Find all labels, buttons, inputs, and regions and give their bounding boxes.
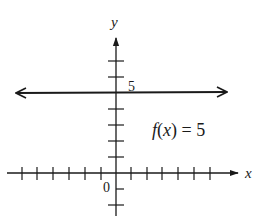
coordinate-plane: y x 0 5 f(x) = 5 xyxy=(0,0,255,219)
function-label: f(x) = 5 xyxy=(152,120,205,141)
origin-label: 0 xyxy=(103,180,110,195)
y-tick-label-5: 5 xyxy=(128,79,135,94)
function-line xyxy=(16,92,227,93)
y-axis-label: y xyxy=(109,14,118,30)
x-axis-label: x xyxy=(244,165,252,181)
